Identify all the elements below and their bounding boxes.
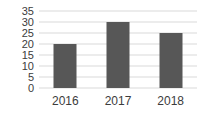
bar-2017 — [107, 22, 130, 88]
bar-2018 — [159, 33, 182, 88]
bar-chart: 05101520253035201620172018 — [0, 0, 207, 119]
gridline — [39, 11, 197, 12]
x-axis-tick-label: 2016 — [52, 95, 79, 107]
x-axis-tick-label: 2017 — [105, 95, 132, 107]
plot-area: 05101520253035201620172018 — [39, 11, 197, 88]
bar-2016 — [54, 44, 77, 88]
x-axis-tick-label: 2018 — [157, 95, 184, 107]
